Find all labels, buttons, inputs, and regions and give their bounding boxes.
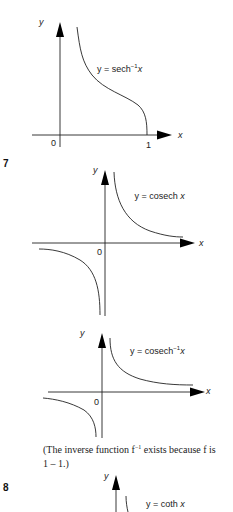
graph-sech-inverse bbox=[32, 22, 172, 147]
axis-x-label: x bbox=[178, 130, 183, 140]
origin-label: 0 bbox=[97, 247, 102, 257]
caption-line-1: (The inverse function f−1 exists because… bbox=[43, 444, 216, 455]
function-name: y = cosech bbox=[130, 346, 173, 356]
origin-label: 0 bbox=[51, 138, 56, 148]
function-label-coth: y = coth x bbox=[146, 499, 185, 509]
axis-x-label: x bbox=[199, 238, 204, 248]
diagram-canvas bbox=[0, 0, 233, 512]
axis-x-label: x bbox=[206, 386, 211, 396]
caption-text: (The inverse function f bbox=[43, 444, 135, 455]
origin-label: 0 bbox=[94, 397, 99, 407]
tick-x-label: 1 bbox=[146, 140, 151, 150]
function-label-cosech: yy = cosech x bbox=[136, 191, 185, 201]
caption-text: exists because f is bbox=[141, 444, 215, 455]
axis-y-label: y bbox=[93, 165, 98, 175]
function-name: y = sech bbox=[97, 64, 131, 74]
problem-number: 8 bbox=[3, 482, 9, 493]
axis-y-label: y bbox=[80, 328, 85, 338]
function-variable: x bbox=[180, 499, 185, 509]
function-label-cosech-inverse: y = cosech−1x bbox=[130, 346, 185, 356]
graph-coth bbox=[112, 475, 128, 512]
inverse-superscript: −1 bbox=[131, 63, 138, 69]
axis-y-label: y bbox=[104, 471, 109, 481]
function-variable: x bbox=[138, 64, 143, 74]
caption-line-2: 1 – 1.) bbox=[43, 458, 69, 469]
function-name: y = coth bbox=[146, 499, 178, 509]
problem-number: 7 bbox=[3, 158, 9, 169]
function-variable: x bbox=[180, 191, 185, 201]
function-name: y = cosech bbox=[135, 191, 178, 201]
axis-y-label: y bbox=[39, 17, 44, 27]
function-variable: x bbox=[180, 346, 185, 356]
function-label-sech-inverse: y = sech−1x bbox=[97, 64, 142, 74]
